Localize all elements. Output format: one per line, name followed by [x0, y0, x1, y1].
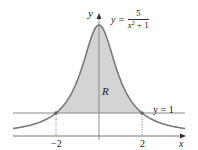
curve-equation-label: y = 5 x2 + 1 [111, 9, 149, 30]
denominator-rest: + 1 [135, 20, 149, 30]
graph-canvas [0, 0, 198, 150]
intersection-point-left [54, 111, 58, 115]
tick-label-2: 2 [140, 138, 145, 149]
tick-label-minus-2: −2 [51, 138, 62, 149]
fraction-numerator: 5 [136, 9, 141, 19]
intersection-point-right [140, 111, 144, 115]
denominator-exponent: 2 [132, 20, 135, 26]
fraction-denominator: x2 + 1 [128, 19, 149, 30]
region-label-r: R [102, 85, 109, 97]
curve-equation-lhs: y = [111, 14, 125, 25]
y-axis-arrow-icon [97, 13, 102, 19]
y-axis-label: y [88, 7, 93, 19]
curve-equation-fraction: 5 x2 + 1 [128, 9, 149, 30]
x-axis-label: x [179, 138, 183, 149]
line-label-y-equals-1: y = 1 [153, 104, 174, 115]
